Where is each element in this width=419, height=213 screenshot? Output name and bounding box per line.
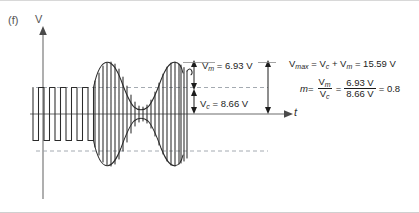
fraction-numerator-symbol: Vm bbox=[316, 77, 332, 88]
y-axis bbox=[39, 26, 47, 199]
modulation-index-symbol: m bbox=[300, 83, 308, 94]
y-axis-label: V bbox=[35, 14, 42, 25]
fraction-denominator-symbol: Vc bbox=[318, 88, 332, 100]
modulation-fraction-symbols: Vm Vc bbox=[316, 77, 332, 100]
vmax-dimension-arrow bbox=[258, 60, 276, 114]
vm-subscript: m bbox=[208, 65, 214, 72]
vmax-eq-part2: + V bbox=[332, 58, 347, 69]
vmax-subscript-m: m bbox=[346, 63, 352, 70]
vm-annotation: Vm = 6.93 V bbox=[202, 60, 252, 72]
vc-annotation: Vc = 8.66 V bbox=[200, 98, 248, 110]
vmax-eq-part1: = V bbox=[311, 58, 326, 69]
fraction-denominator-value: 8.66 V bbox=[344, 88, 375, 99]
fraction-numerator-value: 6.93 V bbox=[344, 78, 375, 88]
vc-subscript: c bbox=[206, 103, 210, 110]
x-axis-label: t bbox=[294, 107, 297, 118]
vc-equation: = 8.66 V bbox=[212, 98, 248, 109]
modulation-equals-1: = bbox=[308, 83, 314, 94]
vmax-eq-part3: = 15.59 V bbox=[355, 58, 396, 69]
vc-dimension-arrow bbox=[191, 89, 197, 114]
frac1-den-sub: c bbox=[326, 93, 330, 100]
frac1-num-sub: m bbox=[325, 81, 331, 88]
am-waveform-figure: (f) V t Vm = 6.93 V Vc = 8.66 V Vmax = V… bbox=[0, 0, 419, 213]
vmax-annotation: Vmax = Vc + Vm = 15.59 V bbox=[289, 58, 396, 70]
part-label: (f) bbox=[8, 15, 18, 26]
vm-equation: = 6.93 V bbox=[217, 60, 253, 71]
modulation-equals-2: = bbox=[336, 83, 342, 94]
modulation-fraction-values: 6.93 V 8.66 V bbox=[344, 78, 375, 99]
vmax-subscript: max bbox=[295, 63, 308, 70]
modulation-index-annotation: m = Vm Vc = 6.93 V 8.66 V = 0.8 bbox=[300, 77, 400, 100]
vmax-subscript-c: c bbox=[326, 63, 330, 70]
modulation-result: = 0.8 bbox=[379, 83, 400, 94]
x-axis bbox=[30, 110, 293, 117]
